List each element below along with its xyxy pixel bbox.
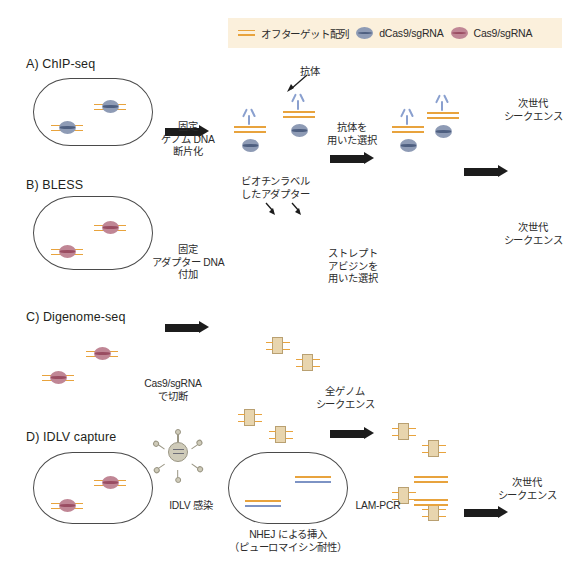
dcas9-protein-icon bbox=[435, 125, 452, 138]
cas9-protein-icon bbox=[50, 371, 67, 384]
cas9-bound-site bbox=[94, 475, 126, 491]
process-arrow-antibody-selection bbox=[330, 152, 374, 165]
result-caption-ngs: 次世代 シークエンス bbox=[495, 98, 571, 123]
dcas9-protein-icon bbox=[356, 27, 373, 39]
idlv-virus-icon bbox=[163, 437, 193, 467]
result-caption-ngs: 次世代 シークエンス bbox=[495, 222, 571, 247]
cas9-protein-icon bbox=[59, 499, 76, 512]
lam-pcr-product bbox=[414, 497, 448, 509]
step-caption-whole-genome-sequencing: 全ゲノム シークエンス bbox=[310, 386, 380, 411]
legend-item-dcas9: dCas9/sgRNA bbox=[356, 27, 443, 39]
dcas9-protein-icon bbox=[400, 139, 417, 152]
antibody-bound-complex bbox=[392, 108, 424, 138]
dcas9-bound-site bbox=[94, 99, 126, 115]
cas9-bound-site bbox=[51, 498, 83, 514]
legend-label-offtarget: オフターゲット配列 bbox=[261, 26, 349, 41]
dcas9-protein-icon bbox=[291, 124, 308, 137]
cas9-bound-site bbox=[86, 346, 118, 362]
dna-fragment bbox=[95, 336, 120, 343]
biotin-adapter-icon bbox=[244, 409, 255, 426]
cell-outline-idlv-infected bbox=[228, 452, 348, 524]
cas9-protein-icon bbox=[102, 476, 119, 489]
process-arrow-sequencing bbox=[464, 165, 508, 178]
legend-label-dcas9: dCas9/sgRNA bbox=[379, 27, 443, 39]
antibody-icon bbox=[289, 93, 307, 110]
antibody-pointer-icon bbox=[287, 72, 309, 92]
legend-item-cas9: Cas9/sgRNA bbox=[451, 27, 533, 39]
legend-item-offtarget: オフターゲット配列 bbox=[238, 26, 349, 41]
legend-label-cas9: Cas9/sgRNA bbox=[474, 27, 533, 39]
biotin-adapter-icon bbox=[302, 354, 313, 371]
step-caption-adapter-ligation: 固定 アダプター DNA 付加 bbox=[145, 244, 231, 282]
lam-pcr-product bbox=[414, 474, 448, 486]
dcas9-protein-icon bbox=[102, 100, 119, 113]
adapter-pointer-icon bbox=[265, 202, 279, 215]
antibody-icon bbox=[240, 108, 258, 125]
cas9-protein-icon bbox=[451, 27, 468, 39]
cas9-bound-site bbox=[42, 370, 74, 386]
caption-nhej-insertion: NHEJ による挿入 （ピューロマイシン耐性） bbox=[203, 528, 373, 555]
step-caption-antibody-selection: 抗体を 用いた選択 bbox=[318, 122, 386, 147]
biotin-adapter-icon bbox=[398, 423, 409, 440]
antibody-bound-complex bbox=[234, 108, 266, 138]
dna-fragment bbox=[237, 324, 259, 331]
biotin-adapter-icon bbox=[272, 337, 283, 354]
dcas9-bound-site bbox=[51, 120, 83, 136]
antibody-icon bbox=[433, 94, 451, 111]
dna-fragment bbox=[249, 166, 273, 173]
panel-title-digenome-seq: C) Digenome-seq bbox=[26, 310, 125, 324]
biotin-adapter-icon bbox=[275, 426, 286, 443]
idlv-integration-site bbox=[295, 474, 331, 486]
idlv-integration-site bbox=[245, 498, 281, 510]
step-caption-cas9-cleavage: Cas9/sgRNA で切断 bbox=[130, 378, 216, 403]
cas9-bound-site bbox=[51, 244, 83, 260]
result-caption-ngs: 次世代 シークエンス bbox=[489, 477, 565, 502]
cas9-bound-site bbox=[94, 220, 126, 236]
antibody-bound-complex bbox=[283, 93, 315, 123]
step-caption-streptavidin-selection: ストレプト アビジンを 用いた選択 bbox=[318, 248, 388, 286]
process-arrow-streptavidin-selection bbox=[330, 427, 374, 440]
adapter-pointer-icon bbox=[291, 202, 305, 215]
biotin-adapter-icon bbox=[428, 440, 439, 457]
panel-title-idlv-capture: D) IDLV capture bbox=[26, 430, 116, 444]
cas9-protein-icon bbox=[102, 221, 119, 234]
dna-fragment bbox=[63, 86, 86, 93]
dna-fragment bbox=[57, 111, 84, 118]
panel-title-chip-seq: A) ChIP-seq bbox=[26, 57, 95, 71]
cas9-protein-icon bbox=[59, 245, 76, 258]
antibody-icon bbox=[398, 108, 416, 125]
panel-title-bless: B) BLESS bbox=[26, 178, 83, 192]
offtarget-lines-icon bbox=[238, 29, 255, 38]
dna-fragment bbox=[240, 350, 264, 357]
dcas9-protein-icon bbox=[59, 121, 76, 134]
dna-fragment bbox=[95, 138, 120, 145]
process-arrow-adapter-ligation bbox=[165, 321, 209, 334]
step-caption-idlv-infection: IDLV 感染 bbox=[158, 500, 224, 513]
legend: オフターゲット配列 dCas9/sgRNA Cas9/sgRNA bbox=[228, 18, 562, 48]
step-caption-lam-pcr: LAM-PCR bbox=[350, 500, 406, 513]
dcas9-protein-icon bbox=[242, 139, 259, 152]
dna-fragment bbox=[63, 280, 86, 287]
step-caption-fixation: 固定 ゲノム DNA 断片化 bbox=[150, 121, 226, 159]
annotation-biotin-adapter: ビオチンラベル したアダプター bbox=[241, 176, 351, 201]
process-arrow-sequencing bbox=[464, 506, 508, 519]
antibody-bound-complex bbox=[427, 94, 459, 124]
cas9-protein-icon bbox=[94, 347, 111, 360]
